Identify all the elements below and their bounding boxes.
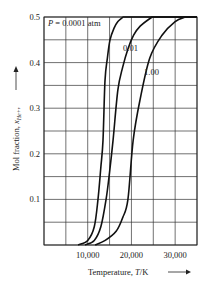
y-tick-label: 0.4 (29, 58, 40, 68)
curve-label-0.0001-atm: P = 0.0001 atm (47, 18, 101, 28)
x-tick-label: 30,000 (163, 250, 186, 260)
chart: P = 0.0001 atm 0.01 1.00 10,00020,00030,… (0, 0, 210, 284)
x-tick-labels: 10,00020,00030,000 (76, 250, 187, 260)
curve-label-0.01: 0.01 (123, 43, 138, 53)
y-tick-label: 0.3 (29, 103, 40, 113)
x-axis-title: Temperature, T/K (88, 267, 149, 277)
curve-label-1.00: 1.00 (144, 67, 159, 77)
x-axis-arrow-icon (168, 270, 191, 275)
y-axis-title: Mol fraction, xHe+, (11, 107, 22, 171)
x-tick-label: 20,000 (120, 250, 143, 260)
grid-lines (44, 17, 197, 245)
y-tick-labels: 0.10.20.30.40.5 (29, 12, 40, 204)
y-tick-label: 0.5 (29, 12, 40, 22)
y-tick-label: 0.1 (29, 194, 40, 204)
x-tick-label: 10,000 (76, 250, 99, 260)
y-axis-arrow-icon (14, 66, 19, 90)
y-axis-title-group: Mol fraction, xHe+, (11, 107, 22, 171)
y-tick-label: 0.2 (29, 149, 40, 159)
